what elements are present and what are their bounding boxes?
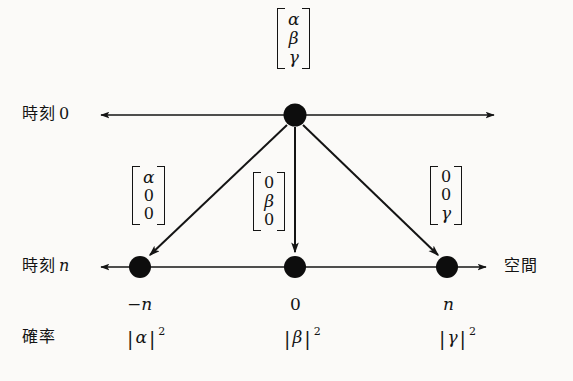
initial-state-entry-2: β: [289, 29, 299, 48]
branch-vector-left-entry-2: 0: [144, 187, 154, 205]
probability-left-exponent: 2: [158, 326, 165, 337]
probability-row-label: 確率: [22, 329, 55, 345]
branch-vector-right-entry-2: 0: [441, 186, 451, 204]
bracket-left-icon: [430, 166, 438, 225]
bracket-left-icon: [277, 8, 285, 69]
branch-vector-right: 0 0 γ: [430, 166, 462, 225]
branch-vector-left-entries: α 0 0: [140, 166, 157, 225]
time0-row-label-index: 0: [59, 106, 69, 122]
bracket-right-icon: [454, 166, 462, 225]
position-label-left: −n: [127, 294, 152, 314]
timen-row-label: 時刻 n: [22, 258, 69, 274]
initial-state-entry-1: α: [288, 10, 299, 29]
initial-state-entry-3: γ: [289, 48, 299, 67]
timen-row-label-index: n: [59, 258, 69, 274]
bracket-left-icon: [253, 172, 261, 231]
branch-vector-left-entry-3: 0: [144, 205, 154, 223]
position-label-center: 0: [290, 294, 301, 314]
probability-right-symbol: γ: [447, 329, 457, 346]
initial-state-vector: α β γ: [277, 8, 310, 69]
time0-row-label: 時刻 0: [22, 106, 69, 122]
branch-vector-right-entries: 0 0 γ: [438, 166, 454, 225]
abs-bar-close-icon: |: [460, 329, 466, 348]
probability-right: | γ | 2: [437, 329, 476, 348]
node-left: [129, 256, 151, 278]
node-right: [436, 256, 458, 278]
bracket-right-icon: [157, 166, 165, 225]
probability-center: | β | 2: [282, 329, 321, 348]
probability-center-exponent: 2: [314, 326, 321, 337]
branch-arrow-right: [303, 125, 438, 255]
bracket-right-icon: [277, 172, 285, 231]
branch-vector-left: α 0 0: [132, 166, 165, 225]
branch-vector-center-entry-1: 0: [264, 174, 274, 192]
timen-row-label-word: 時刻: [22, 258, 55, 274]
figure-caption: [0, 372, 573, 381]
branch-vector-center-entries: 0 β 0: [261, 172, 277, 231]
probability-right-exponent: 2: [469, 326, 476, 337]
position-label-right: n: [443, 294, 454, 314]
probability-center-symbol: β: [292, 329, 302, 346]
abs-bar-open-icon: |: [284, 329, 290, 348]
figure-canvas: α β γ 時刻 0 時刻 n 空間 α 0 0 0 β 0: [0, 0, 573, 381]
probability-left: | α | 2: [125, 329, 165, 348]
source-node: [284, 104, 307, 127]
branch-vector-left-entry-1: α: [143, 168, 154, 187]
branch-vector-center: 0 β 0: [253, 172, 285, 231]
branch-vector-center-entry-2: β: [264, 192, 274, 211]
space-axis-label: 空間: [504, 258, 537, 274]
abs-bar-close-icon: |: [304, 329, 310, 348]
branch-vector-center-entry-3: 0: [264, 211, 274, 229]
bracket-right-icon: [302, 8, 310, 69]
bracket-left-icon: [132, 166, 140, 225]
branch-vector-right-entry-1: 0: [441, 168, 451, 186]
time0-row-label-word: 時刻: [22, 106, 55, 122]
abs-bar-close-icon: |: [149, 329, 155, 348]
branch-vector-right-entry-3: γ: [441, 204, 451, 223]
abs-bar-open-icon: |: [127, 329, 133, 348]
initial-state-entries: α β γ: [285, 8, 302, 69]
probability-left-symbol: α: [135, 329, 146, 346]
abs-bar-open-icon: |: [439, 329, 445, 348]
node-center: [284, 256, 306, 278]
